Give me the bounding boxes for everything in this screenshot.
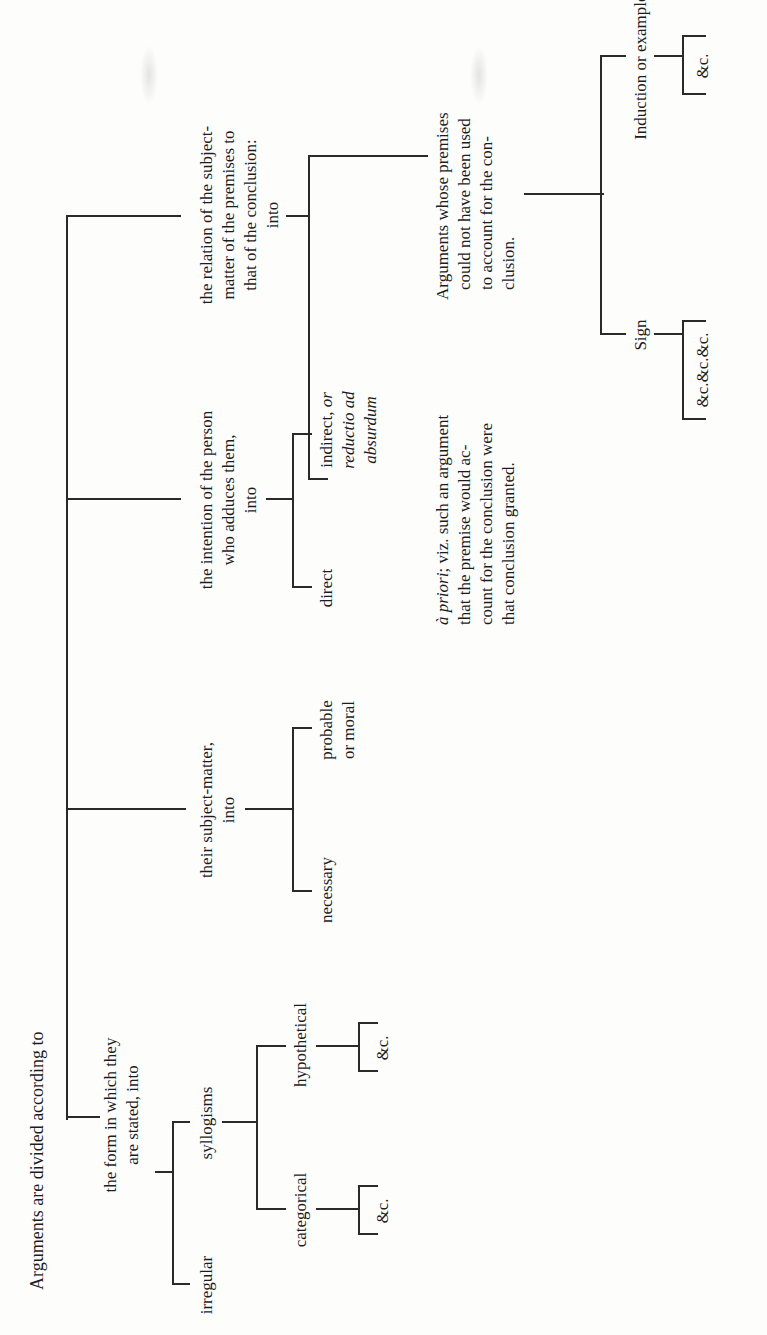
irregular-label: irregular: [196, 1245, 218, 1325]
induction-etc-split: [682, 35, 684, 95]
or-word: or: [317, 392, 336, 407]
whose-tick: [308, 155, 328, 157]
intention-label-3: into: [240, 395, 262, 605]
intention-label-2: who adduces them,: [218, 395, 240, 605]
etc-tick: [358, 1233, 378, 1235]
whose-connector: [524, 193, 604, 195]
categorical-label: categorical: [290, 1165, 312, 1255]
categorical-etc-split: [358, 1185, 360, 1235]
direct-tick: [292, 586, 312, 588]
intention-split: [292, 433, 294, 588]
paper-smudge: [140, 45, 158, 105]
relation-label-4: into: [262, 105, 284, 325]
subject-split: [292, 727, 294, 892]
etc-tick: [682, 93, 706, 95]
whose-label-2: could not have been used: [454, 70, 476, 290]
syllogisms-tick: [172, 1121, 190, 1123]
form-connector: [155, 1171, 173, 1173]
apriori-rest: ; viz. such an argument: [433, 415, 452, 573]
etc-tick: [358, 1022, 378, 1024]
root-label: Arguments are divided according to: [26, 1050, 48, 1290]
probable-tick: [292, 727, 312, 729]
apriori-tick: [308, 478, 328, 480]
syllogisms-split: [256, 1045, 258, 1210]
form-label-1: the form in which they: [100, 1035, 122, 1195]
subject-label-2: into: [218, 730, 240, 890]
probable-label-2: or moral: [338, 685, 360, 775]
sign-label: Sign: [630, 300, 652, 370]
apriori-italic: à priori: [433, 573, 452, 625]
relation-label-2: matter of the premises to: [218, 105, 240, 325]
etc-tick: [358, 1185, 378, 1187]
categorical-tick: [256, 1208, 286, 1210]
etc-tick: [682, 35, 706, 37]
necessary-label: necessary: [316, 840, 338, 940]
intention-label-1: the intention of the person: [196, 395, 218, 605]
form-split: [172, 1121, 174, 1285]
induction-etc: &c.: [692, 46, 714, 86]
hypothetical-tick: [256, 1045, 286, 1047]
rotated-page: Arguments are divided according to the f…: [0, 0, 767, 1335]
indirect-label-1: indirect, or: [316, 375, 338, 485]
categorical-etc: &c.: [372, 1191, 394, 1231]
probable-label-1: probable: [316, 685, 338, 775]
apriori-label-3: count for the conclusion were: [476, 395, 498, 625]
intention-stem: [66, 498, 181, 500]
whose-label-1: Arguments whose premises: [432, 70, 454, 300]
root-spine: [66, 215, 68, 1118]
sign-etc: &c.&c.&c.: [692, 320, 714, 420]
branch-tick-form: [66, 1116, 100, 1118]
hypothetical-etc: &c.: [372, 1028, 394, 1068]
indirect-word: indirect,: [317, 407, 336, 467]
relation-connector: [286, 215, 310, 217]
whose-label-4: clusion.: [498, 70, 520, 290]
hypothetical-label: hypothetical: [290, 995, 312, 1095]
necessary-tick: [292, 890, 312, 892]
categorical-connector: [334, 1208, 360, 1210]
sign-tick: [600, 333, 626, 335]
sign-connector: [654, 333, 684, 335]
sign-etc-split: [682, 320, 684, 420]
intention-connector: [266, 498, 294, 500]
subject-label-1: their subject-matter,: [196, 730, 218, 890]
induction-tick: [600, 55, 626, 57]
hypothetical-etc-split: [358, 1022, 360, 1072]
hypothetical-connector: [316, 1045, 336, 1047]
indirect-label-2: reductio ad: [338, 375, 360, 485]
categorical-connector: [316, 1208, 336, 1210]
relation-split: [308, 155, 310, 480]
syllogisms-connector: [238, 1121, 256, 1123]
whose-label-3: to account for the con-: [476, 70, 498, 290]
form-label-2: are stated, into: [122, 1035, 144, 1195]
apriori-label-4: that conclusion granted.: [498, 395, 520, 625]
hypothetical-connector: [334, 1045, 360, 1047]
whose-split: [600, 55, 602, 335]
irregular-tick: [172, 1283, 190, 1285]
etc-tick: [358, 1070, 378, 1072]
apriori-label-1: à priori; viz. such an argument: [432, 395, 454, 625]
direct-label: direct: [316, 553, 338, 623]
indirect-label-3: absurdum: [360, 375, 382, 485]
relation-stem: [66, 215, 181, 217]
induction-label: Induction or example.: [630, 0, 652, 160]
whose-stem: [328, 155, 428, 157]
relation-label-1: the relation of the subject-: [196, 105, 218, 325]
subject-connector: [245, 808, 293, 810]
syllogisms-label: syllogisms: [196, 1083, 218, 1163]
induction-connector: [654, 55, 684, 57]
relation-label-3: that of the conclusion:: [240, 105, 262, 325]
subject-stem: [66, 808, 186, 810]
apriori-label-2: that the premise would ac-: [454, 395, 476, 625]
